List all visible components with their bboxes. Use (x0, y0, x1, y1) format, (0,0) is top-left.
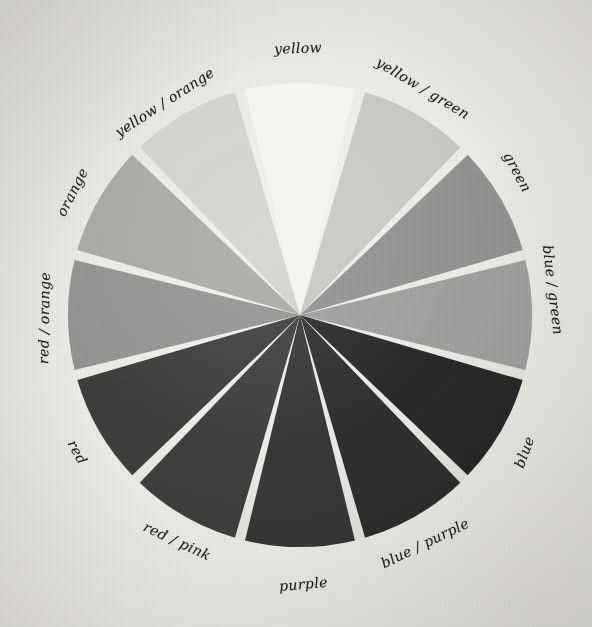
segment-label: purple (278, 575, 328, 593)
wheel-sheen-overlay (68, 83, 532, 547)
segment-label: yellow (274, 40, 322, 56)
segment-label: red / orange (36, 272, 52, 364)
color-wheel-image: yellowyellow / greengreenblue / greenblu… (0, 0, 592, 627)
color-wheel-diagram (0, 0, 592, 627)
